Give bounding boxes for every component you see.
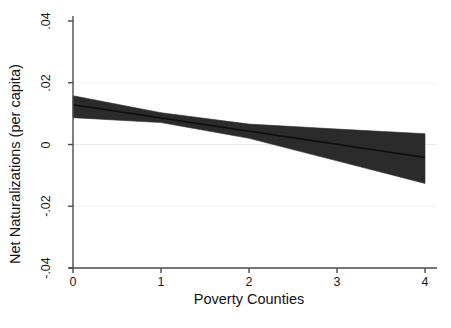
x-tick-label: 4 bbox=[405, 276, 445, 289]
confidence-interval-band bbox=[73, 96, 425, 184]
chart-figure: -.04-.020.02.04 01234 Net Naturalization… bbox=[0, 0, 451, 328]
y-axis-ticks bbox=[68, 21, 73, 268]
y-tick-label: 0 bbox=[38, 126, 54, 164]
x-tick-label: 3 bbox=[317, 276, 357, 289]
y-tick-label: .02 bbox=[38, 64, 54, 102]
x-axis-ticks bbox=[73, 268, 425, 273]
y-tick-label: .04 bbox=[38, 2, 54, 40]
y-tick-label: -.02 bbox=[38, 187, 54, 225]
x-tick-label: 2 bbox=[229, 276, 269, 289]
x-axis-title: Poverty Counties bbox=[73, 290, 425, 308]
x-tick-label: 1 bbox=[141, 276, 181, 289]
y-axis-title: Net Naturalizations (per capita) bbox=[4, 0, 26, 328]
y-tick-label: -.04 bbox=[38, 249, 54, 287]
x-tick-label: 0 bbox=[53, 276, 93, 289]
